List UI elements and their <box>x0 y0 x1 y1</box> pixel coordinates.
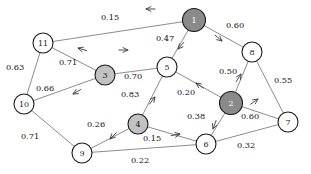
edge-weight-label-3-5: 0.70 <box>124 71 142 81</box>
edge-weight-label-4-5: 0.83 <box>121 89 139 99</box>
edge-weight-label-4-9: 0.26 <box>87 119 105 129</box>
node-label-11: 11 <box>38 39 48 48</box>
edge-2-to-6 <box>211 113 225 136</box>
node-label-6: 6 <box>203 140 208 149</box>
edge-weight-label-3-10: 0.66 <box>36 83 54 93</box>
node-label-2: 2 <box>228 99 233 108</box>
node-label-1: 1 <box>191 16 196 25</box>
node-8[interactable]: 8 <box>242 42 262 62</box>
node-10[interactable]: 10 <box>14 94 34 114</box>
node-label-5: 5 <box>164 63 169 72</box>
node-label-10: 10 <box>19 100 29 109</box>
node-2[interactable]: 2 <box>220 92 243 115</box>
graph-canvas: 0.150.600.470.710.630.660.700.710.830.26… <box>0 0 311 174</box>
node-label-4: 4 <box>135 120 140 129</box>
edge-4-to-5 <box>143 76 163 115</box>
edge-8-to-7 <box>257 61 284 113</box>
node-label-8: 8 <box>249 48 254 57</box>
edge-9-to-6 <box>92 145 196 153</box>
edge-weight-label-1-11: 0.15 <box>101 12 119 22</box>
node-11[interactable]: 11 <box>33 33 53 53</box>
edge-weight-label-11-10: 0.63 <box>6 62 24 72</box>
network-graph-diagram: 0.150.600.470.710.630.660.700.710.830.26… <box>0 0 311 174</box>
node-label-3: 3 <box>102 71 107 80</box>
edge-10-to-9 <box>32 110 75 146</box>
node-5[interactable]: 5 <box>157 57 177 77</box>
edge-weight-label-2-8: 0.50 <box>219 66 237 76</box>
edge-weight-label-3-11: 0.71 <box>59 57 77 67</box>
edge-weight-label-8-7: 0.55 <box>274 75 292 85</box>
node-7[interactable]: 7 <box>278 112 298 132</box>
node-label-9: 9 <box>79 149 84 158</box>
edge-weight-label-10-9: 0.71 <box>21 131 39 141</box>
edge-weight-label-9-6: 0.22 <box>131 155 149 165</box>
edge-weight-label-4-6: 0.15 <box>143 133 161 143</box>
edge-weight-label-2-6: 0.38 <box>187 111 205 121</box>
edge-1-to-5 <box>172 30 188 58</box>
node-6[interactable]: 6 <box>196 134 216 154</box>
node-3[interactable]: 3 <box>95 65 115 85</box>
edge-weight-label-1-5: 0.47 <box>156 33 174 43</box>
node-9[interactable]: 9 <box>72 143 92 163</box>
edge-6-to-7 <box>216 125 279 142</box>
edge-weight-label-1-8: 0.60 <box>226 20 244 30</box>
edge-weight-label-6-7: 0.32 <box>237 140 255 150</box>
node-label-7: 7 <box>285 118 290 127</box>
edge-weight-label-2-5: 0.20 <box>177 87 195 97</box>
node-1[interactable]: 1 <box>183 9 206 32</box>
edge-weight-label-2-7: 0.60 <box>241 111 259 121</box>
node-4[interactable]: 4 <box>128 114 148 134</box>
